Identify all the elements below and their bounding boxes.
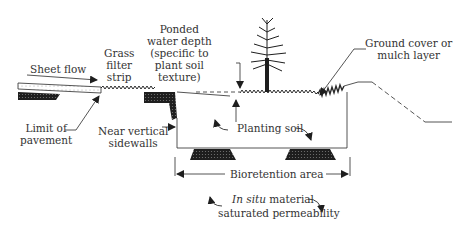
tree-icon xyxy=(251,18,286,92)
vegetated-surface-icon xyxy=(240,90,318,94)
gravel-footing-right xyxy=(285,149,336,160)
sidewalls-line-1: Near vertical xyxy=(98,125,168,137)
grass-line-1: Grass xyxy=(104,47,134,59)
in-situ-label: In situ material xyxy=(232,193,314,205)
mulch-layer-icon xyxy=(318,85,344,96)
bioretention-diagram: Sheet flow Grass filter strip Ponded wat… xyxy=(0,0,467,233)
in-situ-italic: In situ xyxy=(232,193,266,205)
gravel-footing-left xyxy=(190,149,236,160)
ponded-line-1: Ponded xyxy=(147,23,212,35)
planting-soil-arrow-left xyxy=(215,120,228,130)
sheet-flow-arrow xyxy=(27,75,97,80)
ponded-line-3: (specific to xyxy=(147,47,212,59)
grass-line-2: filter xyxy=(104,59,134,71)
bioretention-area-label: Bioretention area xyxy=(228,168,326,180)
ponded-depth-arrow-down xyxy=(236,63,240,88)
ponded-line-4: plant soil xyxy=(147,59,212,71)
ponded-water-depth-label: Ponded water depth (specific to plant so… xyxy=(147,23,212,83)
limit-line-2: pavement xyxy=(20,134,72,146)
in-situ-rest: material xyxy=(266,193,314,205)
ground-cover-label: Ground cover or mulch layer xyxy=(365,37,452,61)
near-vertical-sidewalls-label: Near vertical sidewalls xyxy=(98,125,168,149)
sidewalls-line-2: sidewalls xyxy=(98,137,168,149)
ground-cover-line-1: Ground cover or xyxy=(365,37,452,49)
grass-line-3: strip xyxy=(104,71,134,83)
ground-cover-line-2: mulch layer xyxy=(365,49,452,61)
ponded-line-2: water depth xyxy=(147,35,212,47)
limit-line-1: Limit of xyxy=(20,122,72,134)
limit-of-pavement-label: Limit of pavement xyxy=(20,122,72,146)
grass-filter-strip-label: Grass filter strip xyxy=(104,47,134,83)
sheet-flow-label: Sheet flow xyxy=(30,63,86,75)
pavement xyxy=(18,83,101,100)
planting-soil-label: Planting soil xyxy=(237,122,303,134)
saturated-permeability-label: saturated permeability xyxy=(218,207,340,219)
ponded-line-5: texture) xyxy=(147,71,212,83)
curb-block xyxy=(144,92,177,120)
in-situ-arrow-left xyxy=(210,197,222,206)
grass-strip-icon xyxy=(101,86,155,89)
